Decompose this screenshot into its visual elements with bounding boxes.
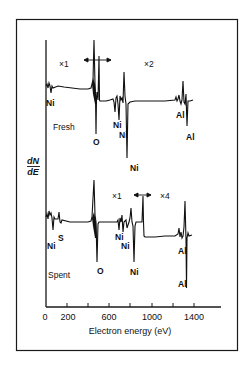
spent-peak-ni-848: Ni: [130, 267, 139, 277]
spent-gain-x1: ×1: [112, 191, 122, 201]
fresh-peak-ni-848: Ni: [130, 163, 139, 173]
fresh-peak-o: O: [93, 137, 100, 147]
fresh-gain-x2: ×2: [144, 59, 154, 69]
svg-text:dN: dN: [27, 156, 39, 166]
svg-text:dE: dE: [27, 167, 39, 177]
spent-peak-s: S: [58, 233, 64, 243]
spent-peak-ni-783: Ni: [121, 241, 130, 251]
y-axis-title: dN dE: [27, 156, 40, 177]
x-tick-label-1400: 1400: [184, 312, 204, 322]
x-axis-title: Electron energy (eV): [89, 326, 172, 336]
fresh-spectrum: [46, 40, 193, 158]
spent-peak-o: O: [97, 266, 104, 276]
fresh-gain-arrow: [84, 58, 111, 62]
fresh-peak-ni-61: Ni: [46, 98, 55, 108]
fresh-trace: [46, 40, 193, 158]
spent-label: Spent: [48, 270, 71, 280]
x-tick-label-0: 0: [42, 312, 47, 322]
fresh-gain-x1: ×1: [59, 59, 69, 69]
spent-gain-x4: ×4: [160, 191, 170, 201]
fresh-peak-al-1380: Al: [176, 110, 185, 120]
spent-peak-al-1396: Al: [178, 279, 187, 289]
x-tick-label-200: 200: [60, 312, 75, 322]
fresh-peak-ni-783: Ni: [119, 130, 128, 140]
spent-peak-al-1380: Al: [178, 246, 187, 256]
auger-spectra-figure: 0 200 600 1000 1400 Electron energy (eV)…: [0, 0, 251, 366]
fresh-label: Fresh: [53, 122, 75, 132]
spent-peak-ni-61: Ni: [47, 241, 56, 251]
fresh-peak-al-1396: Al: [186, 132, 195, 142]
figure-frame: [17, 20, 238, 351]
x-tick-label-600: 600: [101, 312, 116, 322]
fresh-peak-ni-716: Ni: [113, 120, 122, 130]
x-tick-label-1000: 1000: [142, 312, 162, 322]
